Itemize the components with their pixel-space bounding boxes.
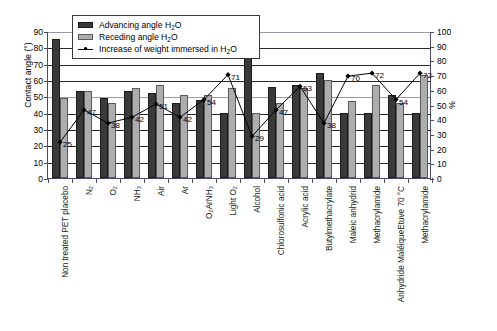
x-axis-category-label: Methacrylamide [374, 186, 382, 244]
chart-legend: Advancing angle H2O Receding angle H2O I… [72, 15, 260, 59]
bar-receding-angle [420, 75, 427, 178]
y-axis-left-title: Contact angle (°) [23, 0, 33, 150]
legend-label-receding: Receding angle H2O [99, 32, 178, 42]
y-axis-left-tick-label: 20 [34, 142, 43, 151]
line-point-value-label: 38 [111, 122, 120, 130]
line-point-value-label: 29 [255, 135, 264, 143]
y-axis-right-tick-label: 30 [437, 131, 446, 140]
bar-advancing-angle [100, 98, 107, 178]
contact-angle-chart: Contact angle (°) % 0102030405060708090 … [0, 0, 497, 331]
x-axis-category-label: Maleic anhydrid [350, 186, 358, 243]
x-axis-category-label: Chlorosulfonic acid [278, 186, 286, 255]
bar-advancing-angle [316, 73, 323, 178]
bar-advancing-angle [268, 87, 275, 178]
x-axis-category-label: Butylmethacrylate [326, 186, 334, 251]
legend-item-receding: Receding angle H2O [78, 31, 254, 43]
y-axis-right-tickmark [430, 47, 434, 48]
x-axis-tickmark [384, 178, 385, 183]
legend-swatch-receding-icon [78, 34, 93, 40]
y-axis-left-tick-label: 90 [34, 28, 43, 37]
bar-receding-angle [132, 88, 139, 178]
bar-advancing-angle [196, 100, 203, 178]
bar-receding-angle [204, 95, 211, 178]
y-axis-right-tick-label: 90 [437, 43, 446, 52]
y-axis-right-tick-label: 80 [437, 57, 446, 66]
line-point-value-label: 63 [303, 85, 312, 93]
line-point-value-label: 54 [399, 99, 408, 107]
y-axis-right-tick-label: 10 [437, 160, 446, 169]
bar-advancing-angle [148, 93, 155, 178]
y-axis-left-tick-label: 30 [34, 126, 43, 135]
legend-label-weight-increase: Increase of weight immersed in H2O [99, 44, 237, 54]
bar-advancing-angle [172, 103, 179, 178]
x-axis-category-label: O₂ [110, 186, 118, 196]
y-axis-left-tick-label: 70 [34, 61, 43, 70]
y-axis-right-title: % [447, 101, 457, 109]
y-axis-right-tick-label: 40 [437, 116, 446, 125]
y-axis-left-tick-label: 0 [38, 175, 43, 184]
bar-group [52, 32, 67, 178]
line-point-value-label: 72 [423, 72, 432, 80]
bar-receding-angle [348, 101, 355, 178]
y-axis-right-tick-label: 70 [437, 72, 446, 81]
y-axis-right-tickmark [430, 91, 434, 92]
bar-receding-angle [396, 103, 403, 178]
x-axis-category-label: Light O₂ [230, 186, 238, 216]
bar-group [292, 32, 307, 178]
x-axis-tickmark [144, 178, 145, 183]
bar-advancing-angle [364, 113, 371, 178]
x-axis-tickmark [72, 178, 73, 183]
x-axis-category-label: Ar [182, 186, 190, 194]
line-point-value-label: 70 [351, 75, 360, 83]
bar-advancing-angle [52, 39, 59, 178]
bar-advancing-angle [244, 51, 251, 178]
bar-receding-angle [84, 91, 91, 178]
bar-receding-angle [180, 95, 187, 178]
bar-receding-angle [60, 98, 67, 178]
bar-receding-angle [252, 113, 259, 178]
bar-group [364, 32, 379, 178]
legend-marker-line-icon [78, 45, 93, 53]
line-point-value-label: 71 [231, 74, 240, 82]
y-axis-right-tick-label: 60 [437, 87, 446, 96]
x-axis-category-label: Acrylic acid [302, 186, 310, 227]
bar-advancing-angle [340, 113, 347, 178]
bar-advancing-angle [412, 113, 419, 178]
bar-group [268, 32, 283, 178]
y-axis-right-tick-label: 50 [437, 102, 446, 111]
legend-label-advancing: Advancing angle H2O [99, 20, 182, 30]
x-axis-category-label: O₂ArNH₃ [206, 186, 214, 219]
bar-receding-angle [108, 103, 115, 178]
x-axis-tickmark [312, 178, 313, 183]
bar-advancing-angle [292, 85, 299, 178]
x-axis-tickmark [120, 178, 121, 183]
x-axis-tickmark [408, 178, 409, 183]
y-axis-left-tick-label: 60 [34, 77, 43, 86]
x-axis-tickmark [336, 178, 337, 183]
line-point-value-label: 47 [87, 109, 96, 117]
x-axis-category-label: Anhydride MaléiqueEtuve 70 °C [398, 186, 406, 302]
line-point-value-label: 51 [159, 103, 168, 111]
bar-advancing-angle [220, 113, 227, 178]
y-axis-right-tickmark [430, 150, 434, 151]
x-axis-category-label: Air [158, 186, 166, 196]
bar-group [316, 32, 331, 178]
bar-advancing-angle [388, 95, 395, 178]
x-axis-tickmark [48, 178, 49, 183]
bar-advancing-angle [124, 91, 131, 178]
y-axis-right-tick-label: 20 [437, 146, 446, 155]
legend-item-weight-increase: Increase of weight immersed in H2O [78, 43, 254, 55]
line-point-value-label: 42 [183, 116, 192, 124]
y-axis-right-tickmark [430, 120, 434, 121]
bar-group [412, 32, 427, 178]
x-axis-category-label: N₂ [86, 186, 94, 195]
y-axis-right-tickmark [430, 164, 434, 165]
x-axis-tickmark [432, 178, 433, 183]
y-axis-right-tickmark [430, 135, 434, 136]
y-axis-left-tick-label: 40 [34, 110, 43, 119]
y-axis-right-tick-label: 100 [437, 28, 451, 37]
y-axis-left-tick-label: 50 [34, 93, 43, 102]
x-axis-category-label: Methacrylamide [422, 186, 430, 244]
x-axis-tickmark [288, 178, 289, 183]
y-axis-right-tick-label: 0 [437, 175, 442, 184]
